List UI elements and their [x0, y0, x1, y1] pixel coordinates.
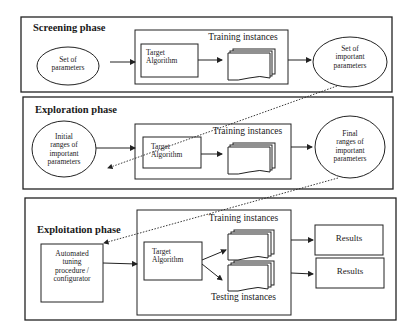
- screening-phase-title: Screening phase: [33, 22, 105, 33]
- text-line: parameters: [320, 62, 380, 70]
- exploration-output-label: Final ranges of important parameters: [322, 130, 378, 163]
- exploration-algorithm-label: Target Algorithm: [151, 143, 182, 160]
- screening-input-label: Set of parameters: [46, 56, 90, 73]
- document-stack-icon-2: [228, 143, 275, 174]
- text-line: parameters: [38, 158, 90, 166]
- document-stack-icon-testing: [228, 261, 274, 291]
- exploitation-testing-label: Testing instances: [201, 292, 286, 302]
- document-stack-icon-1: [228, 49, 275, 80]
- exploitation-training-label: Training instances: [201, 213, 286, 223]
- exploration-phase-title: Exploration phase: [35, 104, 117, 115]
- exploitation-phase-title: Exploitation phase: [37, 224, 121, 235]
- text-line: Algorithm: [151, 151, 182, 159]
- screening-algorithm-label: Target Algorithm: [146, 49, 177, 66]
- text-line: parameters: [322, 155, 378, 163]
- exploitation-algorithm-label: Target Algorithm: [152, 248, 183, 265]
- screening-instances-label: Training instances: [198, 32, 288, 42]
- configurator-label: Automated tuning procedure / configurato…: [41, 250, 103, 283]
- document-stack-icon-training: [228, 230, 274, 260]
- results-label-1: Results: [315, 234, 383, 244]
- text-line: parameters: [46, 64, 90, 72]
- results-label-2: Results: [316, 267, 384, 277]
- exploration-input-label: Initial ranges of important parameters: [38, 133, 90, 166]
- screening-output-label: Set of important parameters: [320, 45, 380, 70]
- text-line: configurator: [41, 275, 103, 283]
- text-line: Algorithm: [152, 256, 183, 264]
- exploration-instances-label: Training instances: [205, 126, 290, 136]
- text-line: Algorithm: [146, 57, 177, 65]
